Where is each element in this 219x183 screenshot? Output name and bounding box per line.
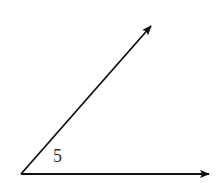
upper-ray-line [21,26,151,174]
angle-svg: 5 [0,0,219,183]
angle-diagram: 5 [0,0,219,183]
angle-label: 5 [53,146,62,166]
